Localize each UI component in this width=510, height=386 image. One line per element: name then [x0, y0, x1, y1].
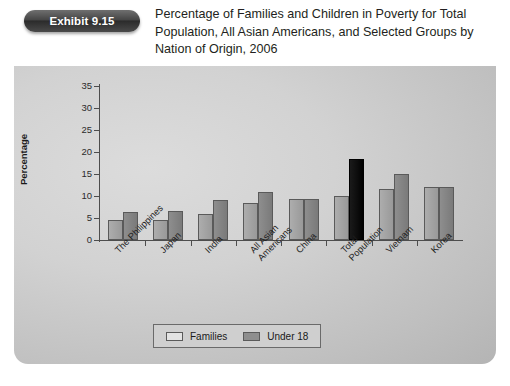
- x-axis-tick: [417, 241, 418, 246]
- x-axis-tick: [145, 241, 146, 246]
- y-axis-tick-label: 20: [64, 147, 92, 157]
- legend-item-families: Families: [166, 331, 227, 342]
- y-axis-tick: [94, 174, 99, 175]
- y-axis-title: Percentage: [18, 134, 29, 185]
- bar-families: [153, 220, 168, 240]
- bar-families: [334, 196, 349, 240]
- y-axis-tick-label: 5: [64, 213, 92, 223]
- x-axis-tick: [191, 241, 192, 246]
- bar-families: [198, 214, 213, 240]
- legend-swatch-icon: [166, 332, 183, 341]
- y-axis-tick: [94, 196, 99, 197]
- exhibit-title: Percentage of Families and Children in P…: [155, 6, 495, 59]
- y-axis-tick: [94, 130, 99, 131]
- y-axis-tick: [94, 218, 99, 219]
- y-axis-tick: [94, 152, 99, 153]
- legend-item-under18: Under 18: [243, 331, 308, 342]
- y-axis-tick: [94, 108, 99, 109]
- x-axis-tick: [326, 241, 327, 246]
- y-axis-tick-label: 25: [64, 125, 92, 135]
- exhibit-number-label: Exhibit 9.15: [49, 15, 114, 27]
- y-axis-tick-label: 30: [64, 103, 92, 113]
- chart-legend: Families Under 18: [153, 324, 321, 348]
- x-axis-tick: [372, 241, 373, 246]
- legend-swatch-icon: [243, 332, 260, 341]
- exhibit-number-badge: Exhibit 9.15: [24, 10, 140, 32]
- x-axis-tick: [236, 241, 237, 246]
- legend-label: Families: [190, 331, 227, 342]
- chart-panel: Percentage 05101520253035 The Philippine…: [14, 66, 496, 364]
- exhibit-header: Exhibit 9.15 Percentage of Families and …: [0, 0, 510, 74]
- bar-families: [243, 203, 258, 240]
- y-axis-tick: [94, 240, 99, 241]
- y-axis-tick-label: 15: [64, 169, 92, 179]
- legend-label: Under 18: [267, 331, 308, 342]
- y-axis-tick-label: 35: [64, 81, 92, 91]
- y-axis-tick-label: 10: [64, 191, 92, 201]
- x-axis-tick: [281, 241, 282, 246]
- y-axis-tick-labels: 05101520253035: [60, 66, 92, 266]
- y-axis-tick-label: 0: [64, 235, 92, 245]
- exhibit-figure: Exhibit 9.15 Percentage of Families and …: [0, 0, 510, 386]
- bar-families: [424, 187, 439, 240]
- y-axis-tick: [94, 86, 99, 87]
- bar-families: [108, 220, 123, 240]
